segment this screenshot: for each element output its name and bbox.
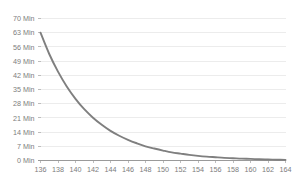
y-axis-tick-label: 42 Min bbox=[13, 71, 35, 80]
y-axis-tick-label: 7 Min bbox=[17, 142, 35, 151]
x-axis-tick-label: 156 bbox=[210, 165, 222, 174]
y-axis-ticks bbox=[38, 19, 41, 161]
x-axis-tick-label: 142 bbox=[87, 165, 99, 174]
x-axis-tick-label: 140 bbox=[70, 165, 82, 174]
x-axis-tick-label: 160 bbox=[245, 165, 257, 174]
x-axis-tick-label: 162 bbox=[262, 165, 274, 174]
series-line-decay bbox=[41, 33, 286, 160]
y-axis-tick-label: 70 Min bbox=[13, 14, 35, 23]
x-axis-tick-label: 138 bbox=[52, 165, 64, 174]
x-axis-tick-label: 146 bbox=[122, 165, 134, 174]
y-axis-tick-label: 56 Min bbox=[13, 43, 35, 52]
data-series bbox=[41, 33, 286, 160]
x-axis-tick-label: 158 bbox=[227, 165, 239, 174]
x-axis-tick-label: 154 bbox=[192, 165, 204, 174]
y-axis-tick-label: 63 Min bbox=[13, 28, 35, 37]
x-axis-tick-label: 136 bbox=[35, 165, 47, 174]
y-axis-tick-label: 28 Min bbox=[13, 99, 35, 108]
y-axis-tick-label: 0 Min bbox=[17, 156, 35, 165]
chart-container: 0 Min7 Min14 Min21 Min28 Min35 Min42 Min… bbox=[0, 0, 294, 186]
y-axis-tick-label: 49 Min bbox=[13, 57, 35, 66]
y-axis-tick-label: 14 Min bbox=[13, 128, 35, 137]
y-axis-labels: 0 Min7 Min14 Min21 Min28 Min35 Min42 Min… bbox=[13, 14, 35, 165]
x-axis-labels: 1361381401421441461481501521541561581601… bbox=[35, 165, 292, 174]
x-axis-tick-label: 152 bbox=[175, 165, 187, 174]
x-axis-tick-label: 150 bbox=[157, 165, 169, 174]
x-axis-tick-label: 164 bbox=[280, 165, 292, 174]
y-axis-tick-label: 21 Min bbox=[13, 114, 35, 123]
y-axis-tick-label: 35 Min bbox=[13, 85, 35, 94]
gridlines bbox=[41, 19, 286, 147]
x-axis-tick-label: 144 bbox=[105, 165, 117, 174]
exponential-decay-line-chart: 0 Min7 Min14 Min21 Min28 Min35 Min42 Min… bbox=[0, 0, 294, 186]
x-axis-tick-label: 148 bbox=[140, 165, 152, 174]
